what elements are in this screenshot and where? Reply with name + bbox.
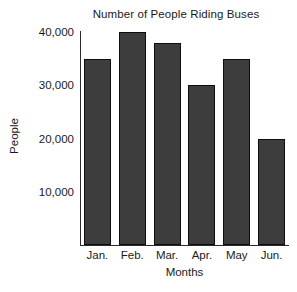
x-tick-label: May: [219, 248, 254, 262]
y-axis-title: People: [8, 106, 20, 166]
y-tick-label: 40,000: [22, 26, 74, 38]
chart-title: Number of People Riding Buses: [62, 8, 290, 20]
y-tick-label: 20,000: [22, 133, 74, 145]
x-axis-title: Months: [80, 266, 289, 278]
x-axis-tick-labels: Jan.Feb.Mar.Apr.MayJun.: [80, 248, 289, 264]
bar: [154, 43, 181, 245]
x-tick-label: Jan.: [80, 248, 115, 262]
bar: [188, 85, 215, 245]
x-tick-label: Mar.: [150, 248, 185, 262]
bar: [84, 59, 111, 245]
x-axis-line: [80, 245, 289, 246]
bar: [258, 139, 285, 246]
x-tick-label: Jun.: [254, 248, 289, 262]
bar-series: [80, 32, 289, 245]
y-tick-label: 10,000: [22, 186, 74, 198]
y-tick-label: 30,000: [22, 79, 74, 91]
bar: [223, 59, 250, 245]
bar: [119, 32, 146, 245]
x-tick-label: Apr.: [185, 248, 220, 262]
x-tick-label: Feb.: [115, 248, 150, 262]
y-axis-tick-labels: 10,00020,00030,00040,000: [22, 0, 74, 292]
bar-chart-figure: Number of People Riding Buses People 10,…: [0, 0, 297, 292]
